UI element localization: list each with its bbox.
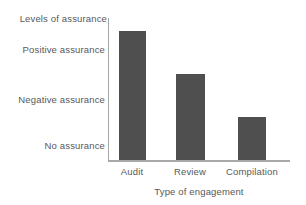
x-axis-title: Type of engagement [154,187,243,197]
x-axis-tick-review: Review [174,167,206,177]
bar-compilation [238,117,266,160]
x-axis-tick-compilation: Compilation [226,167,278,177]
x-axis-tick-audit: Audit [121,167,143,177]
assurance-bar-chart: Levels of assurance Positive assurance N… [0,0,306,205]
bar-audit [119,31,146,160]
bar-review [176,74,205,160]
